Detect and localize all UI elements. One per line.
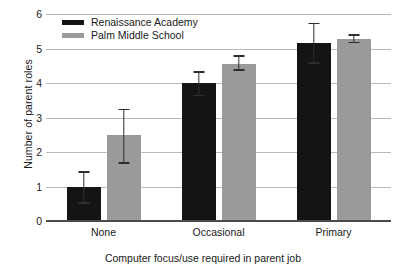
- legend-swatch-icon: [62, 20, 84, 25]
- bar: [297, 43, 331, 221]
- error-bar: [107, 109, 141, 164]
- gridline: [46, 14, 391, 15]
- error-bar-cap-bottom: [193, 95, 204, 97]
- error-bar-cap-bottom: [233, 69, 244, 71]
- legend-swatch-icon: [62, 33, 84, 38]
- legend-item: Palm Middle School: [62, 29, 198, 42]
- y-axis-tick-label: 6: [2, 9, 42, 20]
- y-axis-tick-label: 2: [2, 147, 42, 158]
- x-axis-line: [46, 220, 391, 222]
- plot-area: 0123456: [46, 14, 391, 221]
- y-axis-tick-label: 5: [2, 43, 42, 54]
- y-axis-tick-label: 0: [2, 216, 42, 227]
- error-bar-stem: [313, 23, 314, 64]
- error-bar-cap-bottom: [308, 62, 319, 64]
- bar-chart: Number of parent roles 0123456 NoneOccas…: [0, 0, 406, 277]
- y-axis-tick-label: 3: [2, 112, 42, 123]
- y-axis-tick-label: 4: [2, 78, 42, 89]
- error-bar-cap-bottom: [78, 202, 89, 204]
- error-bar-stem: [123, 109, 124, 164]
- error-bar: [182, 71, 216, 96]
- legend-label: Renaissance Academy: [91, 17, 198, 28]
- bar: [222, 64, 256, 221]
- error-bar: [222, 55, 256, 71]
- y-axis-tick-label: 1: [2, 181, 42, 192]
- bar: [182, 83, 216, 221]
- x-axis-title: Computer focus/use required in parent jo…: [0, 252, 406, 264]
- x-axis-tick-label: None: [91, 226, 116, 238]
- error-bar: [67, 171, 101, 204]
- x-axis-tick-label: Occasional: [193, 226, 245, 238]
- error-bar: [337, 34, 371, 43]
- x-axis-tick-label: Primary: [315, 226, 351, 238]
- bar: [337, 39, 371, 221]
- legend-item: Renaissance Academy: [62, 16, 198, 29]
- error-bar-cap-bottom: [348, 42, 359, 44]
- error-bar: [297, 23, 331, 64]
- legend: Renaissance AcademyPalm Middle School: [62, 16, 198, 42]
- error-bar-stem: [198, 71, 199, 96]
- error-bar-cap-bottom: [118, 162, 129, 164]
- legend-label: Palm Middle School: [91, 30, 184, 41]
- error-bar-stem: [83, 171, 84, 204]
